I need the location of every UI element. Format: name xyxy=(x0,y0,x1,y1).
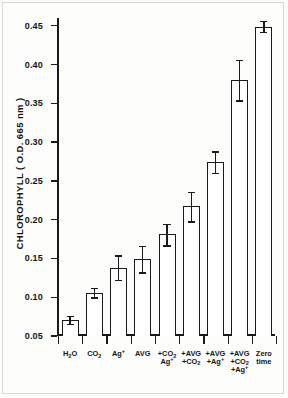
x-axis-label: Zerotime xyxy=(256,350,272,366)
y-tick-label: 0.20 xyxy=(25,215,43,225)
x-axis-label: +AVG+CO2+Ag+ xyxy=(230,350,250,374)
y-tick: 0.40 xyxy=(51,64,57,65)
y-tick: 0.20 xyxy=(51,219,57,220)
error-bar-line xyxy=(263,21,264,32)
x-separator xyxy=(179,336,180,344)
error-bar-cap-bottom xyxy=(212,173,219,174)
y-tick-label: 0.40 xyxy=(25,60,43,70)
error-bar-cap-bottom xyxy=(91,297,98,298)
x-axis-label: CO2 xyxy=(87,350,101,358)
error-bar-cap-top xyxy=(188,192,195,193)
y-tick: 0.15 xyxy=(51,258,57,259)
y-axis-line xyxy=(57,18,59,336)
error-bar-cap-bottom xyxy=(163,245,170,246)
y-tick-label: 0.25 xyxy=(25,176,43,186)
error-bar-line xyxy=(191,192,192,221)
error-bar-line xyxy=(94,288,95,297)
y-tick: 0.45 xyxy=(51,25,57,26)
x-separator xyxy=(203,336,204,344)
x-separator xyxy=(58,336,59,344)
error-bar-cap-bottom xyxy=(139,272,146,273)
error-bar-cap-bottom xyxy=(115,280,122,281)
x-separator xyxy=(82,336,83,344)
y-tick-label: 0.15 xyxy=(25,253,43,263)
bar xyxy=(255,27,272,336)
error-bar-cap-top xyxy=(139,246,146,247)
x-axis-label: +CO2Ag+ xyxy=(158,350,177,366)
chlorophyll-bar-chart-figure: CHLOROPHYLL ( O.D. 665 nm ) 0.050.100.15… xyxy=(0,0,288,398)
error-bar-cap-bottom xyxy=(188,221,195,222)
y-tick: 0.05 xyxy=(51,335,57,336)
y-tick: 0.25 xyxy=(51,180,57,181)
error-bar-cap-bottom xyxy=(67,324,74,325)
error-bar-cap-top xyxy=(212,151,219,152)
error-bar-cap-top xyxy=(236,60,243,61)
x-separator xyxy=(228,336,229,344)
error-bar-cap-top xyxy=(163,224,170,225)
error-bar-cap-bottom xyxy=(260,32,267,33)
bar xyxy=(207,162,224,336)
error-bar-cap-top xyxy=(115,255,122,256)
bar xyxy=(159,234,176,336)
x-axis-label: Ag+ xyxy=(112,350,125,358)
y-tick-label: 0.35 xyxy=(25,98,43,108)
error-bar-cap-top xyxy=(260,21,267,22)
x-axis-label: +AVG+CO2 xyxy=(181,350,201,366)
y-tick-label: 0.30 xyxy=(25,137,43,147)
y-tick: 0.35 xyxy=(51,103,57,104)
y-tick-label: 0.10 xyxy=(25,292,43,302)
bar xyxy=(183,206,200,336)
x-axis-label: H2O xyxy=(63,350,77,358)
bar xyxy=(86,293,103,336)
error-bar-line xyxy=(142,246,143,272)
error-bar-cap-bottom xyxy=(236,100,243,101)
x-axis-label: +AVG+Ag+ xyxy=(206,350,226,366)
plot-area: 0.050.100.150.200.250.300.350.400.45 H2O… xyxy=(57,18,275,336)
x-separator xyxy=(276,336,277,344)
x-axis-label: AVG xyxy=(135,350,150,358)
error-bar-cap-top xyxy=(67,316,74,317)
y-axis-title: CHLOROPHYLL ( O.D. 665 nm ) xyxy=(14,69,25,279)
y-tick: 0.10 xyxy=(51,297,57,298)
error-bar-line xyxy=(166,224,167,246)
x-separator xyxy=(106,336,107,344)
y-tick-label: 0.05 xyxy=(25,331,43,341)
error-bar-line xyxy=(215,151,216,173)
y-tick: 0.30 xyxy=(51,141,57,142)
x-separator xyxy=(155,336,156,344)
error-bar-cap-top xyxy=(91,288,98,289)
y-tick-label: 0.45 xyxy=(25,21,43,31)
error-bar-line xyxy=(239,60,240,100)
x-separator xyxy=(131,336,132,344)
x-separator xyxy=(252,336,253,344)
error-bar-line xyxy=(118,255,119,280)
bar xyxy=(231,80,248,336)
